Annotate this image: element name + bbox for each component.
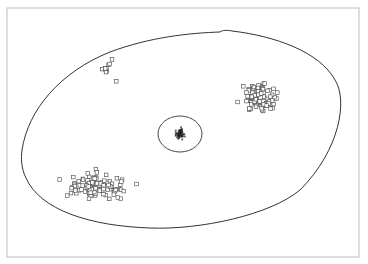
lower-left-dense-marker <box>98 189 102 193</box>
upper-right-dense-marker <box>250 95 254 99</box>
upper-left-sparse-marker <box>104 70 108 74</box>
figure <box>0 0 368 264</box>
lower-left-dense-marker <box>87 185 91 189</box>
central-core-marker <box>183 133 185 135</box>
central-core-marker <box>184 136 186 138</box>
marker-layer <box>58 58 279 201</box>
upper-right-dense-marker <box>263 82 267 86</box>
lower-left-dense-marker <box>95 182 99 186</box>
lower-left-dense-marker <box>122 189 126 193</box>
lower-left-dense-marker <box>58 178 62 182</box>
upper-right-dense-marker <box>254 98 258 102</box>
lower-left-dense-marker <box>94 187 98 191</box>
upper-right-dense-marker <box>245 99 249 103</box>
central-core-marker <box>180 126 182 128</box>
upper-right-dense-marker <box>259 92 263 96</box>
upper-left-sparse-marker <box>108 62 112 66</box>
lower-left-dense-marker <box>102 192 106 196</box>
upper-right-dense-marker <box>260 107 264 111</box>
upper-right-dense-marker <box>242 85 246 89</box>
lower-left-dense-marker <box>81 184 85 188</box>
lower-left-dense-marker <box>66 194 70 198</box>
upper-left-sparse-marker <box>115 80 119 84</box>
upper-right-dense-marker <box>252 85 256 89</box>
central-core-marker <box>177 138 179 140</box>
lower-left-dense-marker <box>93 177 97 181</box>
lower-left-dense-marker <box>91 181 95 185</box>
central-core-marker <box>175 130 177 132</box>
lower-left-dense-marker <box>120 180 124 184</box>
upper-right-dense-marker <box>245 91 249 95</box>
central-core-marker <box>175 134 177 136</box>
lower-left-dense-marker <box>70 186 74 190</box>
lower-left-dense-marker <box>108 197 112 201</box>
upper-left-sparse-marker <box>103 67 107 71</box>
central-core-marker <box>181 134 183 136</box>
lower-left-dense-marker <box>115 177 119 181</box>
lower-left-dense-marker <box>86 172 90 176</box>
lower-left-dense-marker <box>103 179 107 183</box>
central-core-marker <box>179 131 181 133</box>
lower-left-dense-marker <box>87 197 91 201</box>
upper-right-dense-marker <box>261 87 265 91</box>
upper-right-dense-marker <box>258 100 262 104</box>
upper-right-dense-marker <box>269 107 273 111</box>
lower-left-dense-marker <box>102 187 106 191</box>
upper-right-dense-marker <box>246 95 250 99</box>
lower-left-dense-marker <box>114 188 118 192</box>
lower-left-dense-marker <box>69 191 73 195</box>
upper-right-dense-marker <box>266 89 270 93</box>
upper-left-sparse-marker <box>110 58 114 62</box>
upper-right-dense-marker <box>247 107 251 111</box>
upper-right-dense-marker <box>256 86 260 90</box>
lower-left-dense-marker <box>81 178 85 182</box>
upper-right-dense-marker <box>272 87 276 91</box>
central-core-marker <box>181 139 183 141</box>
lower-left-dense-marker <box>104 173 108 177</box>
lower-left-dense-marker <box>72 175 76 179</box>
lower-left-dense-marker <box>74 189 78 193</box>
upper-right-dense-marker <box>269 95 273 99</box>
lower-left-dense-marker <box>107 183 111 187</box>
diagram-canvas <box>0 0 368 264</box>
lower-left-dense-marker <box>89 191 93 195</box>
lower-left-dense-marker <box>95 171 99 175</box>
lower-left-dense-marker <box>80 188 84 192</box>
lower-left-dense-marker <box>135 182 139 186</box>
lower-left-dense-marker <box>102 184 106 188</box>
upper-right-dense-marker <box>265 104 269 108</box>
lower-left-dense-marker <box>112 193 116 197</box>
upper-right-dense-marker <box>249 103 253 107</box>
upper-right-dense-marker <box>236 100 240 104</box>
upper-right-dense-marker <box>276 91 280 95</box>
upper-right-dense-marker <box>272 102 276 106</box>
lower-left-dense-marker <box>77 179 81 183</box>
upper-right-dense-marker <box>254 105 258 109</box>
central-core-marker <box>178 135 180 137</box>
central-core-marker <box>178 136 180 138</box>
lower-left-dense-marker <box>116 196 120 200</box>
lower-left-dense-marker <box>83 190 87 194</box>
central-core-marker <box>175 132 177 134</box>
